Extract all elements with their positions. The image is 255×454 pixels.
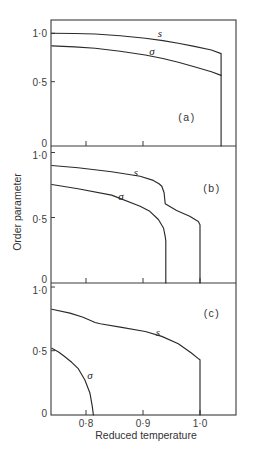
x-axis-label: Reduced temperature <box>95 429 197 441</box>
y-tick-label: 0·5 <box>33 346 48 357</box>
series-label-sigma: σ <box>118 190 124 202</box>
y-tick-label: 0·5 <box>33 77 48 88</box>
y-tick-label: 0 <box>41 408 47 419</box>
y-tick-label: 1·0 <box>33 28 48 39</box>
order-parameter-figure: 00·51·0sσ(a)00·51·0sσ(b)00·51·0sσ(c) 0·8… <box>0 0 255 454</box>
series-label-sigma: σ <box>87 369 93 381</box>
y-tick-label: 0·5 <box>33 214 48 225</box>
y-tick-label: 1·0 <box>33 150 48 161</box>
y-tick-label: 1·0 <box>33 285 48 296</box>
x-tick-label: 1·0 <box>193 418 208 429</box>
y-axis-label: Order parameter <box>11 173 23 251</box>
panel-label: (a) <box>178 111 195 123</box>
x-tick-label: 0·8 <box>79 418 94 429</box>
series-label-sigma: σ <box>149 45 155 57</box>
panel-label: (c) <box>204 307 221 319</box>
y-tick-label: 0 <box>41 274 47 285</box>
series-label-s: s <box>156 326 160 338</box>
series-label-s: s <box>158 27 162 39</box>
series-label-s: s <box>134 166 138 178</box>
x-tick-label: 0·9 <box>136 418 151 429</box>
background <box>0 0 255 454</box>
y-tick-label: 0 <box>41 138 47 149</box>
panel-label: (b) <box>203 182 220 194</box>
